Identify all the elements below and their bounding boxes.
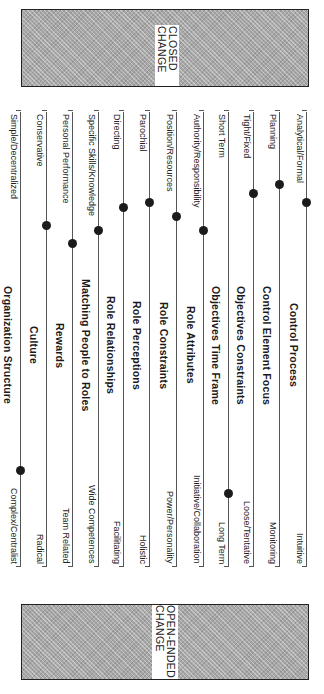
right-pole-label: Facilitating [112, 521, 122, 564]
scale-start-tick [68, 110, 73, 111]
position-marker-dot [199, 226, 208, 235]
scale-start-tick [145, 110, 150, 111]
left-pole-label: Directing [112, 114, 122, 150]
scale-end-tick [68, 566, 73, 567]
scale-title-role-attributes: Role Attributes [185, 306, 197, 384]
right-pole-label: Monitoring [268, 522, 278, 564]
scale-end-tick [42, 566, 47, 567]
closed-change-band: CLOSED CHANGE [21, 9, 309, 87]
scale-end-tick [16, 566, 21, 567]
scale-start-tick [94, 110, 99, 111]
position-marker-dot [16, 466, 25, 475]
scale-end-tick [94, 566, 99, 567]
scale-line-control-process [306, 112, 307, 566]
scale-end-tick [199, 566, 204, 567]
scale-title-culture: Culture [28, 326, 40, 364]
scale-line-role-relationships [123, 112, 124, 566]
left-pole-label: Tight/Fixed [242, 114, 252, 158]
scale-title-role-constraints: Role Constraints [158, 302, 170, 389]
scale-start-tick [119, 110, 124, 111]
scale-start-tick [172, 110, 177, 111]
left-pole-label: Conservative [35, 114, 45, 167]
scale-start-tick [224, 110, 229, 111]
scale-start-tick [199, 110, 204, 111]
position-marker-dot [302, 198, 311, 207]
right-pole-label: Complex/Centralist [9, 488, 19, 564]
scale-start-tick [16, 110, 21, 111]
scale-end-tick [172, 566, 177, 567]
scale-end-tick [275, 566, 280, 567]
scale-title-control-element-focus: Control Element Focus [261, 286, 273, 405]
right-pole-label: Power/Personality [165, 491, 175, 564]
right-pole-label: Long Term [217, 522, 227, 564]
scale-line-rewards [72, 112, 73, 566]
scale-title-control-process: Control Process [288, 303, 300, 387]
scale-title-objectives-constraints: Objectives Constraints [235, 286, 247, 405]
closed-change-label: CLOSED CHANGE [155, 25, 179, 86]
position-marker-dot [275, 180, 284, 189]
right-pole-label: Loose/Tentative [242, 501, 252, 564]
scale-title-role-perceptions: Role Perceptions [131, 301, 143, 390]
scale-line-role-constraints [176, 112, 177, 566]
open-ended-change-label: OPEN-ENDED CHANGE [152, 605, 178, 679]
position-marker-dot [119, 203, 128, 212]
scale-start-tick [302, 110, 307, 111]
scale-title-rewards: Rewards [54, 323, 66, 368]
left-pole-label: Planning [268, 114, 278, 149]
scale-title-organization-structure: Organization Structure [2, 286, 14, 404]
scale-line-objectives-constraints [253, 112, 254, 566]
position-marker-dot [224, 489, 233, 498]
scale-end-tick [249, 566, 254, 567]
left-pole-label: Position/Resources [165, 114, 175, 192]
open-ended-change-band: OPEN-ENDED CHANGE [21, 604, 309, 680]
scale-line-organization-structure [20, 112, 21, 566]
scale-end-tick [119, 566, 124, 567]
scale-start-tick [42, 110, 47, 111]
left-pole-label: Short Term [217, 114, 227, 158]
right-pole-label: Wide Competences [87, 485, 97, 564]
scale-end-tick [145, 566, 150, 567]
position-marker-dot [172, 212, 181, 221]
scale-line-matching-people-to-roles [98, 112, 99, 566]
left-pole-label: Parochial [138, 114, 148, 152]
left-pole-label: Authority/Responsibility [192, 114, 202, 208]
position-marker-dot [249, 189, 258, 198]
right-pole-label: Intuitive [295, 533, 305, 564]
right-pole-label: Initiative/Collaboration [192, 475, 202, 564]
right-pole-label: Radical [35, 534, 45, 564]
scale-line-role-perceptions [149, 112, 150, 566]
scale-line-culture [46, 112, 47, 566]
left-pole-label: Analytical/Formal [295, 114, 305, 183]
scale-title-objectives-time-frame: Objectives Time Frame [210, 286, 222, 405]
left-pole-label: Specific Skills/Knowledge [87, 114, 97, 216]
position-marker-dot [42, 221, 51, 230]
scale-line-role-attributes [203, 112, 204, 566]
scale-line-objectives-time-frame [228, 112, 229, 566]
left-pole-label: Simple/Decentralized [9, 114, 19, 199]
position-marker-dot [94, 226, 103, 235]
right-pole-label: Team Related [61, 508, 71, 564]
scale-end-tick [224, 566, 229, 567]
scale-title-matching-people-to-roles: Matching People to Roles [80, 279, 92, 412]
left-pole-label: Personal Performance [61, 114, 71, 204]
scale-start-tick [275, 110, 280, 111]
scale-end-tick [302, 566, 307, 567]
position-marker-dot [145, 198, 154, 207]
position-marker-dot [68, 239, 77, 248]
scale-start-tick [249, 110, 254, 111]
right-pole-label: Holistic [138, 535, 148, 564]
scale-title-role-relationships: Role Relationships [105, 296, 117, 394]
